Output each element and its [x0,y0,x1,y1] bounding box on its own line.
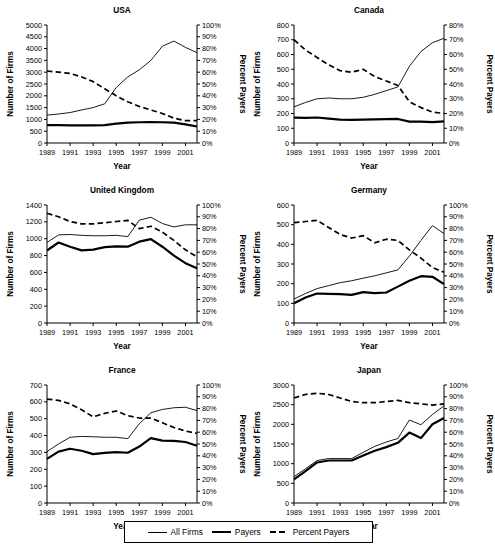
left-axis-tick-label: 100 [277,299,289,308]
x-axis-tick-label: 1997 [378,508,394,517]
left-axis-tick-label: 1500 [273,440,289,449]
x-axis-tick-label: 1999 [401,508,417,517]
right-axis-tick-label: 30% [449,463,464,472]
y2-axis-label: Percent Payers [238,54,247,114]
x-axis-tick-label: 2001 [177,148,193,157]
x-axis-tick-label: 1999 [401,148,417,157]
left-axis-tick-label: 2500 [26,80,42,89]
right-axis-tick-label: 60% [449,50,464,59]
legend-item-all-firms: All Firms [148,527,203,537]
x-axis-tick-label: 1989 [39,148,55,157]
x-axis-tick-label: 1991 [309,148,325,157]
series-line-percent-payers [47,71,197,121]
x-axis-tick-label: 1991 [309,328,325,337]
right-axis-tick-label: 50% [202,440,217,449]
left-axis-tick-label: 500 [277,479,289,488]
chart-title: Germany [351,185,387,195]
left-axis-tick-label: 400 [277,80,289,89]
left-axis-tick-label: 200 [30,302,42,311]
chart-panel-germany: Germany01002003004005006000%10%20%30%40%… [247,180,495,360]
left-axis-tick-label: 100 [277,124,289,133]
right-axis-tick-label: 100% [202,201,221,210]
left-axis-tick-label: 4000 [26,44,42,53]
chart-svg-canada: Canada01002003004005006007008000%10%20%3… [247,0,494,180]
x-axis-tick-label: 2001 [424,508,440,517]
y-axis-label: Number of Firms [6,231,15,297]
right-axis-tick-label: 60% [202,68,217,77]
left-axis-tick-label: 700 [277,35,289,44]
right-axis-tick-label: 50% [449,65,464,74]
right-axis-tick-label: 60% [202,428,217,437]
left-axis-tick-label: 600 [277,201,289,210]
right-axis-tick-label: 70% [202,56,217,65]
left-axis-tick-label: 600 [277,50,289,59]
left-axis-tick-label: 800 [277,21,289,30]
chart-title: Japan [357,365,381,375]
series-line-payers [294,117,444,122]
right-axis-tick-label: 90% [202,212,217,221]
y2-axis-label: Percent Payers [238,414,247,474]
x-axis-tick-label: 1989 [286,148,302,157]
left-axis-tick-label: 0 [38,139,42,148]
right-axis-tick-label: 50% [202,80,217,89]
y2-axis-label: Percent Payers [485,54,494,114]
right-axis-tick-label: 80% [449,21,464,30]
x-axis-tick-label: 1999 [401,328,417,337]
x-axis-tick-label: 2001 [177,328,193,337]
y-axis-label: Number of Firms [253,51,262,117]
right-axis-tick-label: 10% [202,127,217,136]
x-axis-tick-label: 1999 [154,328,170,337]
x-axis-tick-label: 1991 [62,508,78,517]
right-axis-tick-label: 40% [449,451,464,460]
left-axis-tick-label: 3000 [26,68,42,77]
right-axis-tick-label: 100% [449,381,468,390]
right-axis-tick-label: 30% [202,463,217,472]
left-axis-tick-label: 1000 [26,115,42,124]
right-axis-tick-label: 100% [202,381,221,390]
series-line-all-firms [294,406,444,477]
right-axis-tick-label: 30% [202,283,217,292]
chart-svg-germany: Germany01002003004005006000%10%20%30%40%… [247,180,494,360]
right-axis-tick-label: 100% [449,201,468,210]
series-line-percent-payers [294,220,444,272]
legend-label-all-firms: All Firms [171,527,203,537]
right-axis-tick-label: 10% [202,307,217,316]
left-axis-tick-label: 400 [30,431,42,440]
right-axis-tick-label: 10% [449,307,464,316]
x-axis-tick-label: 1995 [355,328,371,337]
left-axis-tick-label: 1000 [26,234,42,243]
chart-title: France [108,365,136,375]
x-axis-tick-label: 1995 [355,508,371,517]
chart-panel-usa: USA0500100015002000250030003500400045005… [0,0,247,180]
legend-item-payers: Payers [212,527,261,537]
x-axis-tick-label: 1997 [131,508,147,517]
left-axis-tick-label: 2000 [26,91,42,100]
left-axis-tick-label: 500 [277,220,289,229]
x-axis-tick-label: 1997 [131,328,147,337]
left-axis-tick-label: 500 [30,414,42,423]
chart-svg-france: France01002003004005006007000%10%20%30%4… [0,360,247,540]
x-axis-tick-label: 1993 [332,328,348,337]
right-axis-tick-label: 40% [449,271,464,280]
right-axis-tick-label: 40% [202,451,217,460]
y2-axis-label: Percent Payers [485,414,494,474]
left-axis-tick-label: 100 [30,482,42,491]
right-axis-tick-label: 20% [202,475,217,484]
left-axis-tick-label: 600 [30,397,42,406]
right-axis-tick-label: 0% [202,139,213,148]
chart-title: Canada [354,5,384,15]
left-axis-tick-label: 200 [30,465,42,474]
x-axis-tick-label: 1989 [286,508,302,517]
x-axis-tick-label: 1991 [62,328,78,337]
right-axis-tick-label: 100% [202,21,221,30]
series-line-all-firms [47,217,197,242]
x-axis-tick-label: 1997 [131,148,147,157]
right-axis-tick-label: 30% [449,94,464,103]
right-axis-tick-label: 70% [449,35,464,44]
right-axis-tick-label: 40% [202,271,217,280]
right-axis-tick-label: 60% [449,248,464,257]
left-axis-tick-label: 2500 [273,400,289,409]
series-line-payers [47,122,197,126]
right-axis-tick-label: 80% [202,404,217,413]
left-axis-tick-label: 5000 [26,21,42,30]
